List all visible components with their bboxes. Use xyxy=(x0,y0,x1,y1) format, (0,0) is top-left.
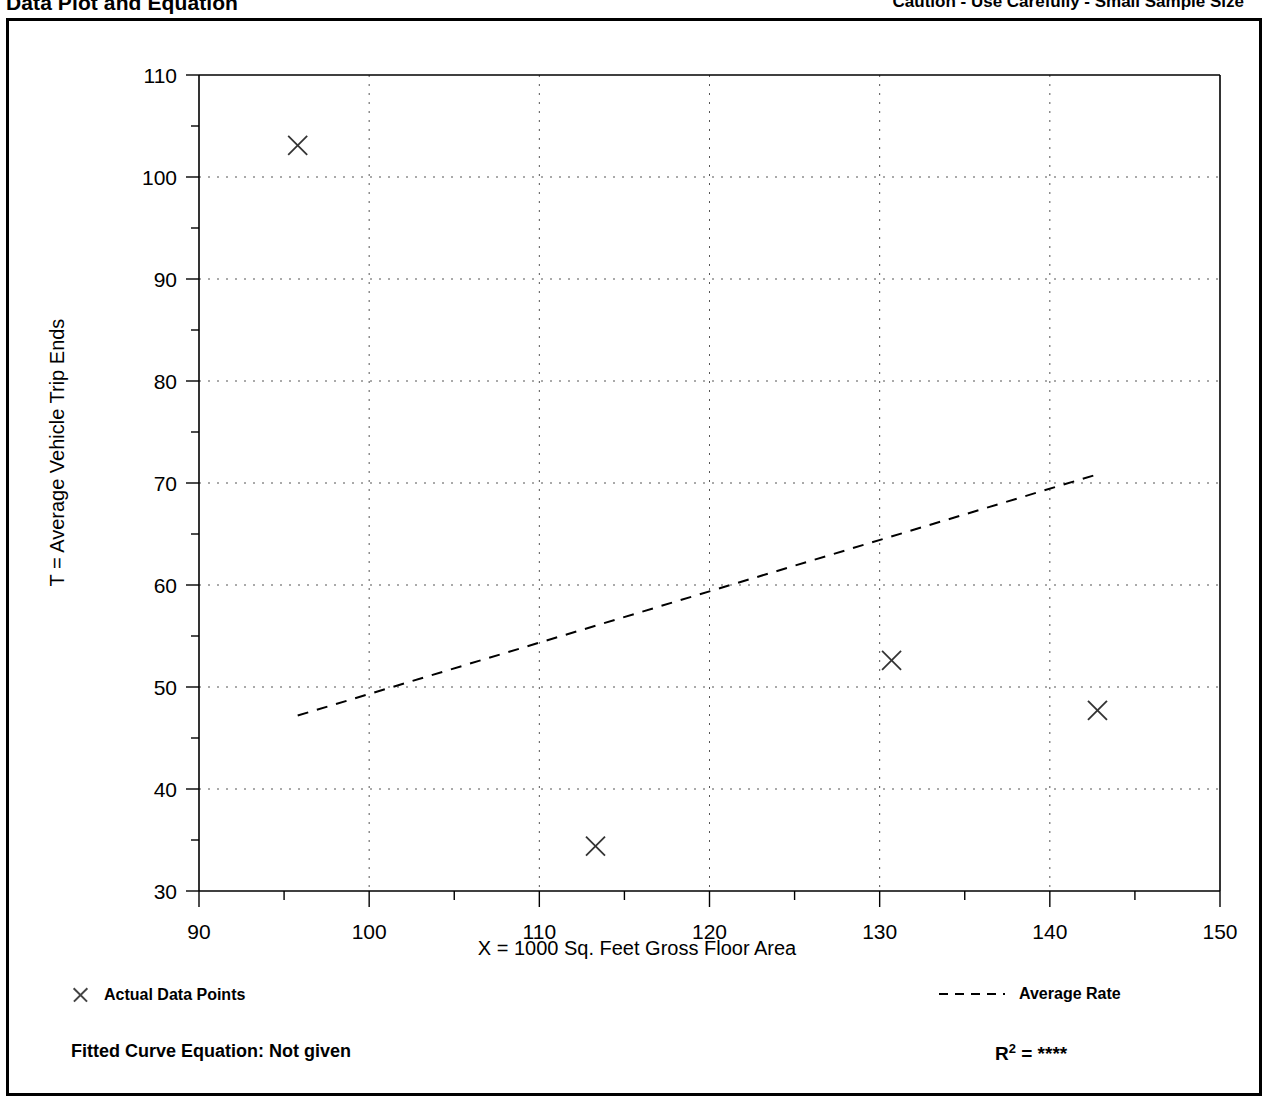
x-axis-title: X = 1000 Sq. Feet Gross Floor Area xyxy=(9,937,1265,960)
legend-label-data-points: Actual Data Points xyxy=(104,986,245,1004)
svg-text:70: 70 xyxy=(154,472,177,495)
r-squared-exponent: 2 xyxy=(1009,1041,1016,1056)
svg-text:80: 80 xyxy=(154,370,177,393)
page-header: Data Plot and Equation Caution - Use Car… xyxy=(0,0,1274,14)
axis-ticks xyxy=(186,75,1220,907)
y-axis-title: T = Average Vehicle Trip Ends xyxy=(46,173,69,733)
r-squared-value: R2 = **** xyxy=(995,1041,1067,1065)
axis-tick-labels: 3040506070809010011090100110120130140150 xyxy=(142,64,1238,943)
svg-text:110: 110 xyxy=(144,64,177,87)
svg-text:30: 30 xyxy=(154,880,177,903)
svg-text:40: 40 xyxy=(154,778,177,801)
page-title: Data Plot and Equation xyxy=(6,0,238,14)
r-squared-number: = **** xyxy=(1021,1043,1067,1064)
svg-text:50: 50 xyxy=(154,676,177,699)
x-marker-icon xyxy=(71,985,90,1004)
fitted-curve-equation: Fitted Curve Equation: Not given xyxy=(71,1041,351,1062)
plot-area: 3040506070809010011090100110120130140150… xyxy=(9,21,1265,1099)
chart-panel: 3040506070809010011090100110120130140150… xyxy=(6,18,1262,1096)
legend-label-average-rate: Average Rate xyxy=(1019,985,1121,1003)
average-rate-line xyxy=(298,475,1096,716)
legend-entry-data-points: Actual Data Points xyxy=(71,985,245,1004)
chart-legend: Actual Data Points Average Rate xyxy=(9,985,1265,1019)
svg-text:100: 100 xyxy=(142,166,177,189)
chart-footer: Fitted Curve Equation: Not given R2 = **… xyxy=(9,1041,1265,1075)
legend-entry-average-rate: Average Rate xyxy=(939,985,1121,1003)
caution-note: Caution - Use Carefully - Small Sample S… xyxy=(893,0,1244,12)
dashed-line-icon xyxy=(939,993,1005,995)
data-point-markers xyxy=(288,136,1107,856)
svg-text:60: 60 xyxy=(154,574,177,597)
svg-text:90: 90 xyxy=(154,268,177,291)
r-squared-prefix: R xyxy=(995,1043,1009,1064)
